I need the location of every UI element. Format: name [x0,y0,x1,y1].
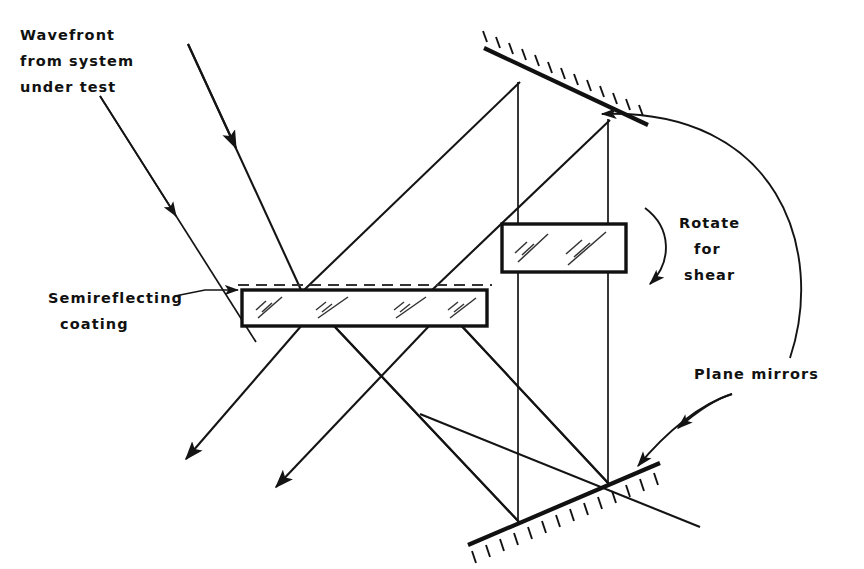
output-ray-upper [186,325,302,459]
plane-mirror-top [483,31,648,125]
label-rotate-line3: shear [684,267,735,283]
beam-nodeA-to-top-mirror [302,82,520,292]
label-wavefront-line1: Wavefront [20,27,115,43]
optical-diagram-figure: Wavefront from system under test Semiref… [0,0,864,569]
plane-mirror-bottom [468,463,660,563]
label-semireflecting-line1: Semireflecting [48,290,183,306]
label-semireflecting-line2: coating [60,316,129,332]
plane-mirrors-leader-bottom [638,394,732,466]
plane-mirror-bottom-hatching [472,473,658,563]
label-rotate-line1: Rotate [679,215,740,231]
label-wavefront-line3: under test [20,79,116,95]
input-ray-lower-arrow [100,96,176,216]
diagram-canvas: Wavefront from system under test Semiref… [0,0,864,569]
rotate-for-shear-arrow [645,208,666,284]
shear-plate [502,224,626,272]
label-plane-mirrors: Plane mirrors [694,366,819,382]
plane-mirror-top-hatching [483,31,643,116]
label-rotate-line2: for [694,241,721,257]
label-rotate-for-shear: Rotate for shear [679,215,740,283]
label-wavefront-line2: from system [20,53,134,69]
vertical-beam-group [518,82,608,523]
label-plane-mirrors-line1: Plane mirrors [694,366,819,382]
label-wavefront: Wavefront from system under test [20,27,134,95]
plane-mirrors-leader-top [602,114,801,358]
output-ray-lower [276,325,430,487]
beamsplitter-plate [238,285,492,326]
input-ray-upper-arrow [188,44,236,148]
semireflecting-coating-leader [175,290,238,296]
label-semireflecting-coating: Semireflecting coating [48,290,183,332]
